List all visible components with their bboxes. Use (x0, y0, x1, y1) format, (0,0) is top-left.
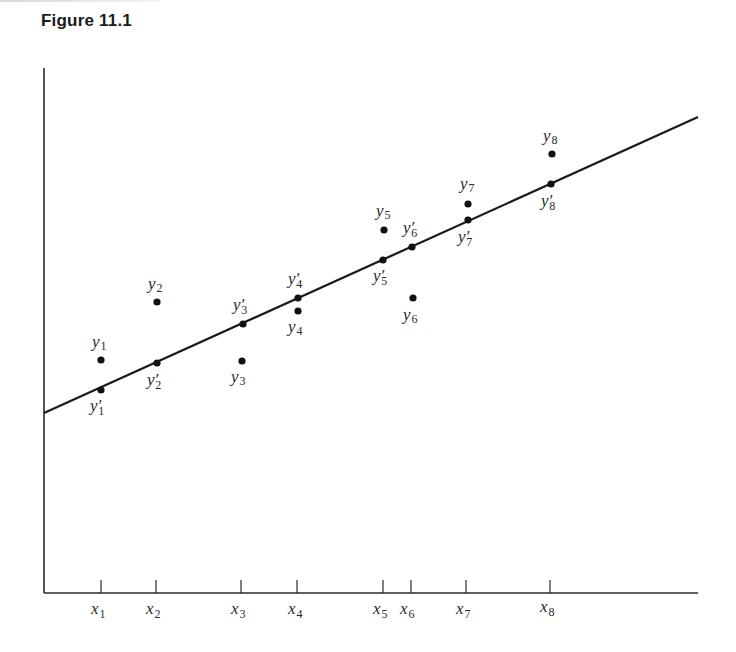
observed-label: y6 (401, 305, 418, 326)
observed-label: y4 (286, 317, 303, 338)
x-tick-label: x7 (455, 599, 471, 621)
predicted-label: y′5 (371, 266, 387, 288)
observed-point (409, 294, 416, 301)
observed-point (238, 357, 245, 364)
x-tick-label: x4 (287, 599, 303, 621)
observed-point (380, 226, 387, 233)
x-tick-label: x2 (145, 599, 161, 621)
axes (44, 68, 698, 593)
regression-line (44, 117, 698, 413)
predicted-point (153, 359, 160, 366)
predicted-label: y′2 (145, 370, 161, 392)
predicted-point (547, 180, 554, 187)
observed-labels: y1 y2 y3 y4 y5 y6 y7 y8 (90, 126, 558, 388)
observed-label: y1 (90, 332, 107, 353)
x-tick-label: x1 (90, 599, 106, 621)
scatter-plot: x1 x2 x3 x4 x5 x6 x7 x8 y1 y2 y3 y4 (0, 0, 736, 652)
predicted-label: y′6 (401, 218, 417, 240)
x-tick-labels: x1 x2 x3 x4 x5 x6 x7 x8 (90, 597, 555, 621)
observed-points (97, 150, 555, 364)
predicted-label: y′4 (286, 269, 302, 291)
observed-point (548, 150, 555, 157)
observed-point (294, 307, 301, 314)
x-tick-label: x5 (372, 599, 388, 621)
predicted-label: y′8 (539, 191, 555, 213)
observed-label: y7 (458, 174, 475, 195)
predicted-point (464, 216, 471, 223)
predicted-point (239, 320, 246, 327)
predicted-label: y′1 (88, 396, 104, 418)
predicted-label: y′3 (231, 295, 247, 317)
predicted-point (97, 386, 104, 393)
observed-label: y5 (374, 201, 391, 222)
predicted-label: y′7 (456, 227, 472, 249)
x-tick-label: x6 (399, 599, 415, 621)
observed-point (464, 200, 471, 207)
observed-label: y3 (229, 367, 246, 388)
observed-label: y8 (541, 126, 558, 147)
observed-point (97, 356, 104, 363)
predicted-point (294, 294, 301, 301)
x-tick-label: x8 (539, 597, 555, 619)
x-ticks (101, 580, 550, 593)
predicted-point (379, 256, 386, 263)
x-tick-label: x3 (230, 599, 246, 621)
observed-point (153, 298, 160, 305)
observed-label: y2 (146, 274, 163, 295)
predicted-point (408, 243, 415, 250)
